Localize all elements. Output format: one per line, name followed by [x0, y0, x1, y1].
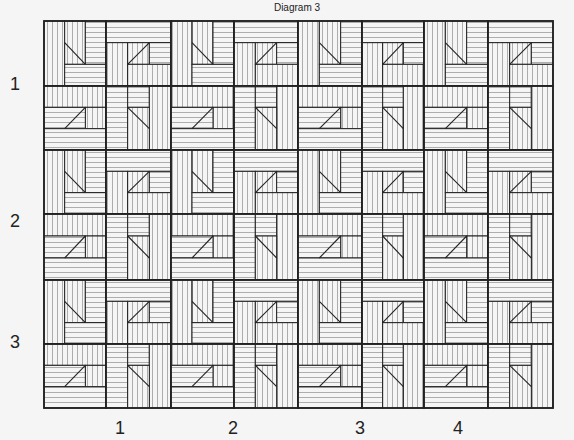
quilt-block-A	[171, 280, 234, 344]
quilt-block-B	[106, 150, 171, 214]
quilt-block-D	[234, 344, 298, 408]
quilt-block-C	[298, 344, 362, 408]
quilt-block-A	[298, 280, 362, 344]
quilt-block-D	[106, 344, 171, 408]
quilt-block-D	[106, 86, 171, 150]
quilt-block-B	[106, 21, 171, 86]
quilt-block-A	[424, 280, 488, 344]
quilt-block-D	[488, 214, 553, 280]
quilt-block-D	[362, 344, 424, 408]
quilt-block-A	[44, 280, 106, 344]
quilt-block-D	[362, 214, 424, 280]
quilt-block-B	[234, 280, 298, 344]
quilt-block-A	[298, 150, 362, 214]
quilt-block-C	[171, 344, 234, 408]
quilt-block-B	[488, 21, 553, 86]
quilt-block-A	[44, 21, 106, 86]
quilt-grid	[0, 0, 574, 440]
quilt-block-B	[362, 150, 424, 214]
quilt-block-C	[424, 214, 488, 280]
quilt-block-C	[44, 214, 106, 280]
quilt-block-C	[44, 344, 106, 408]
quilt-block-C	[44, 86, 106, 150]
quilt-block-A	[171, 150, 234, 214]
quilt-block-B	[488, 150, 553, 214]
quilt-block-D	[106, 214, 171, 280]
quilt-block-D	[362, 86, 424, 150]
quilt-block-A	[424, 21, 488, 86]
quilt-block-C	[171, 86, 234, 150]
quilt-block-B	[362, 21, 424, 86]
quilt-block-B	[234, 21, 298, 86]
quilt-block-C	[171, 214, 234, 280]
quilt-block-B	[106, 280, 171, 344]
quilt-block-D	[234, 214, 298, 280]
quilt-block-C	[298, 86, 362, 150]
quilt-block-D	[234, 86, 298, 150]
quilt-block-C	[298, 214, 362, 280]
quilt-block-A	[424, 150, 488, 214]
quilt-block-C	[424, 86, 488, 150]
quilt-block-A	[298, 21, 362, 86]
quilt-block-A	[44, 150, 106, 214]
quilt-block-D	[488, 344, 553, 408]
quilt-block-B	[488, 280, 553, 344]
quilt-block-B	[362, 280, 424, 344]
quilt-block-A	[171, 21, 234, 86]
quilt-block-B	[234, 150, 298, 214]
quilt-block-C	[424, 344, 488, 408]
quilt-block-D	[488, 86, 553, 150]
